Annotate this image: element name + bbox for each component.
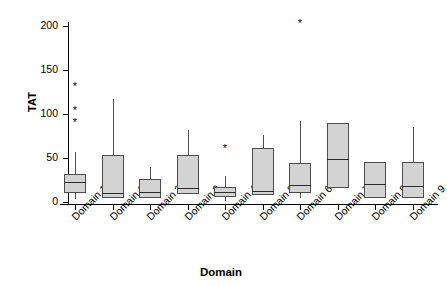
y-tick-mark bbox=[63, 158, 68, 159]
whisker-upper bbox=[300, 121, 301, 163]
box bbox=[327, 123, 349, 188]
median-line bbox=[402, 186, 424, 187]
whisker-upper bbox=[263, 135, 264, 148]
y-tick-mark bbox=[63, 26, 68, 27]
whisker-upper bbox=[413, 127, 414, 162]
outlier-marker: * bbox=[70, 106, 80, 114]
median-line bbox=[177, 188, 199, 189]
outlier-marker: * bbox=[70, 118, 80, 126]
outlier-marker: * bbox=[70, 82, 80, 90]
whisker-upper bbox=[188, 130, 189, 156]
box bbox=[64, 174, 86, 193]
whisker-lower bbox=[225, 197, 226, 201]
box bbox=[252, 148, 274, 195]
y-axis-label: TAT bbox=[26, 72, 38, 132]
median-line bbox=[214, 192, 236, 193]
median-line bbox=[64, 182, 86, 183]
median-line bbox=[327, 159, 349, 160]
box bbox=[364, 162, 386, 198]
box bbox=[402, 162, 424, 198]
outlier-marker: * bbox=[295, 19, 305, 27]
whisker-upper bbox=[150, 167, 151, 179]
outlier-marker: * bbox=[220, 144, 230, 152]
median-line bbox=[289, 185, 311, 186]
box bbox=[289, 163, 311, 193]
y-tick-mark bbox=[63, 114, 68, 115]
y-tick-label: 50 bbox=[24, 151, 58, 163]
whisker-upper bbox=[225, 176, 226, 187]
y-tick-label: 150 bbox=[24, 63, 58, 75]
whisker-lower bbox=[75, 193, 76, 199]
median-line bbox=[364, 184, 386, 185]
x-axis-label: Domain bbox=[0, 266, 442, 278]
whisker-lower bbox=[300, 193, 301, 198]
y-tick-label: 0 bbox=[24, 195, 58, 207]
y-tick-label: 100 bbox=[24, 107, 58, 119]
whisker-upper bbox=[75, 152, 76, 174]
median-line bbox=[139, 192, 161, 193]
median-line bbox=[252, 191, 274, 192]
box bbox=[102, 155, 124, 197]
box bbox=[139, 179, 161, 197]
y-tick-mark bbox=[63, 70, 68, 71]
median-line bbox=[102, 193, 124, 194]
y-tick-mark bbox=[63, 202, 68, 203]
whisker-upper bbox=[113, 99, 114, 155]
y-tick-label: 200 bbox=[24, 19, 58, 31]
